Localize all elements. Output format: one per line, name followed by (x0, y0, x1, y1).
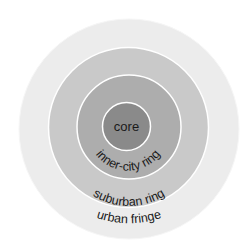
core-label: core (114, 119, 139, 134)
concentric-zone-diagram: core inner-city ring suburban ring urban… (0, 0, 246, 249)
